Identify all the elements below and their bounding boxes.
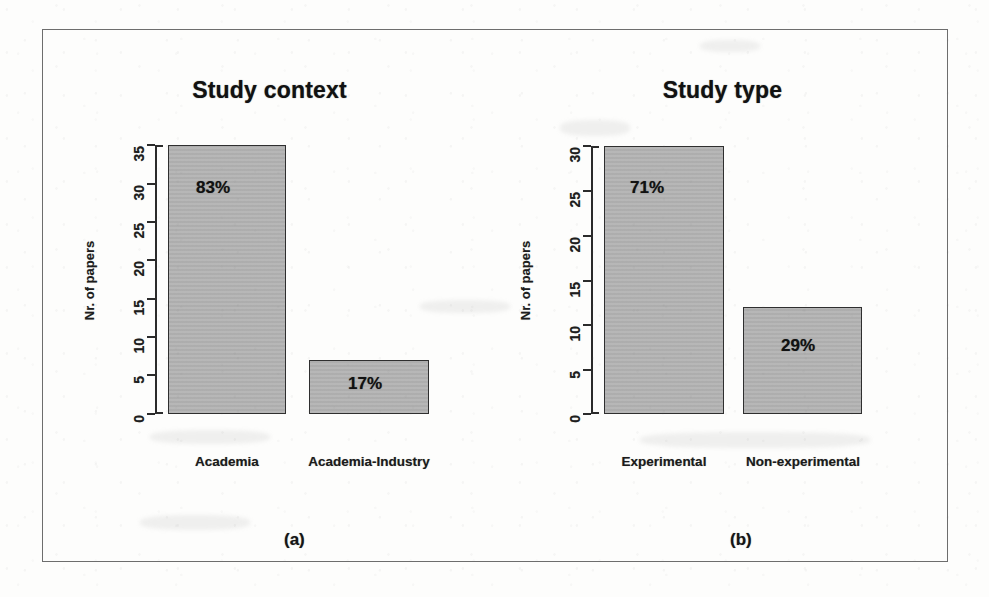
y-tick-label-a-0: 0 — [131, 415, 147, 449]
y-tick-label-a-5: 5 — [131, 376, 147, 410]
y-tick-a-0 — [147, 413, 155, 415]
y-tick-label-a-10: 10 — [131, 338, 147, 378]
y-tick-a-20 — [147, 259, 155, 261]
y-tick-a-25 — [147, 221, 155, 223]
y-tick-a-30 — [147, 183, 155, 185]
y-axis-title-b: Nr. of papers — [518, 226, 533, 336]
y-tick-label-b-30: 30 — [567, 147, 583, 187]
y-tick-a-15 — [147, 298, 155, 300]
scanned-page: Study context Nr. of papers 0 5 10 15 20 — [0, 0, 989, 597]
plot-area-study-type: Nr. of papers 0 5 10 15 20 25 30 — [496, 30, 949, 563]
chart-panel-study-type: Study type Nr. of papers 0 5 10 15 20 25 — [496, 30, 949, 563]
bar-value-academia-industry: 17% — [348, 374, 382, 394]
bar-non-experimental[interactable] — [743, 307, 862, 414]
bar-value-non-experimental: 29% — [781, 336, 815, 356]
y-tick-b-30 — [583, 145, 591, 147]
y-axis-title-a: Nr. of papers — [82, 226, 97, 336]
y-tick-label-a-35: 35 — [131, 146, 147, 186]
y-tick-label-b-10: 10 — [567, 326, 583, 366]
subfigure-caption-a: (a) — [284, 530, 305, 550]
y-tick-b-0 — [583, 413, 591, 415]
y-tick-label-b-0: 0 — [567, 415, 583, 449]
y-tick-b-5 — [583, 369, 591, 371]
y-tick-a-5 — [147, 374, 155, 376]
y-tick-a-10 — [147, 336, 155, 338]
y-tick-label-a-20: 20 — [131, 261, 147, 301]
chart-panel-study-context: Study context Nr. of papers 0 5 10 15 20 — [43, 30, 496, 563]
y-tick-b-20 — [583, 235, 591, 237]
x-label-academia-industry: Academia-Industry — [299, 454, 439, 469]
y-axis-line-a — [155, 145, 157, 414]
bar-value-academia: 83% — [196, 178, 230, 198]
x-label-academia: Academia — [167, 454, 287, 469]
y-tick-label-a-25: 25 — [131, 223, 147, 263]
plot-area-study-context: Nr. of papers 0 5 10 15 20 25 30 — [43, 30, 496, 563]
y-tick-b-10 — [583, 324, 591, 326]
y-tick-b-25 — [583, 190, 591, 192]
figure-frame: Study context Nr. of papers 0 5 10 15 20 — [42, 29, 948, 562]
y-tick-label-b-15: 15 — [567, 282, 583, 322]
x-label-experimental: Experimental — [604, 454, 724, 469]
y-axis-line-b — [591, 146, 593, 414]
y-tick-b-15 — [583, 280, 591, 282]
x-label-non-experimental: Non-experimental — [733, 454, 873, 469]
y-tick-label-b-20: 20 — [567, 237, 583, 277]
y-tick-label-b-25: 25 — [567, 192, 583, 232]
y-tick-label-a-30: 30 — [131, 185, 147, 225]
y-tick-label-a-15: 15 — [131, 300, 147, 340]
subfigure-caption-b: (b) — [730, 530, 752, 550]
y-tick-a-35 — [147, 144, 155, 146]
bar-value-experimental: 71% — [630, 178, 664, 198]
y-tick-label-b-5: 5 — [567, 371, 583, 405]
